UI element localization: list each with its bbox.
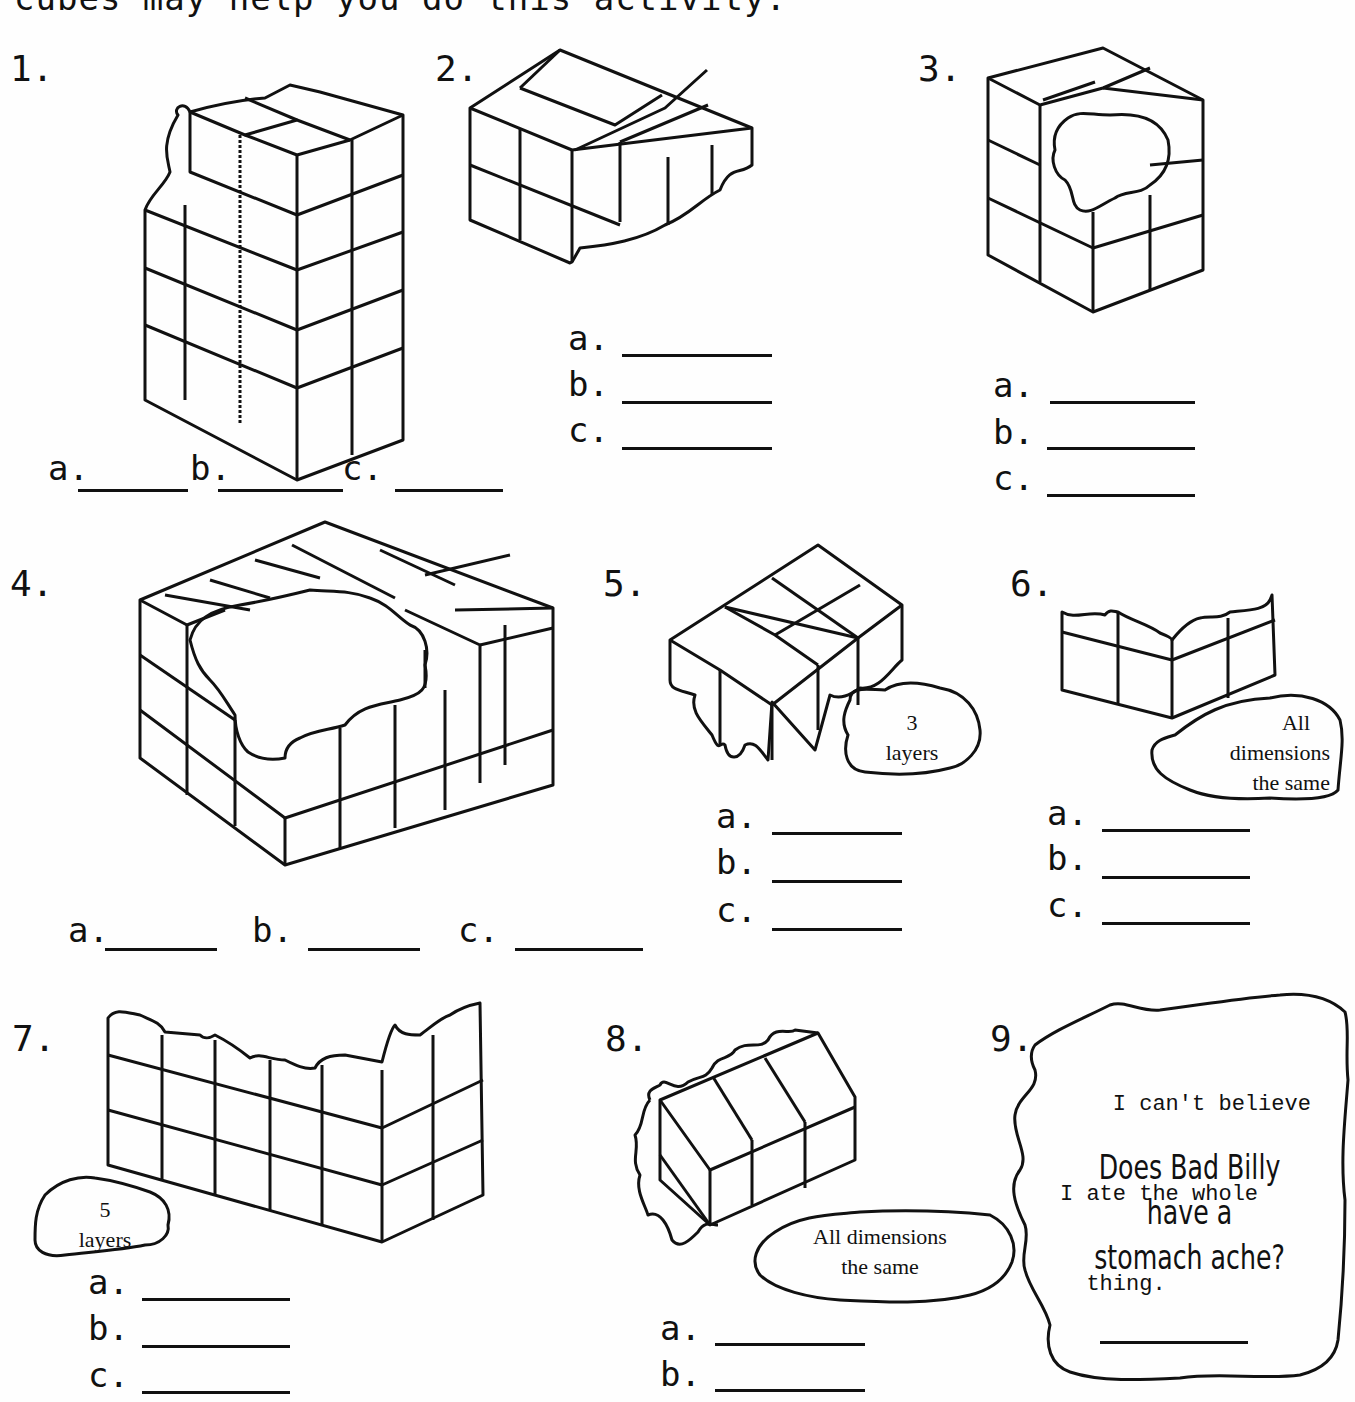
note-line: All [1170, 708, 1330, 738]
answer-label: c. [88, 1355, 129, 1395]
answer-blank[interactable] [772, 928, 902, 931]
answer-label: b. [88, 1308, 129, 1348]
answer-blank[interactable] [1102, 829, 1250, 832]
problem-number: 3. [918, 48, 961, 89]
note-bubble: All dimensions the same [1170, 708, 1330, 798]
answer-blank[interactable] [715, 1343, 865, 1346]
intro-text: cubes may help you do this activity. [14, 0, 787, 18]
note-line: the same [1170, 768, 1330, 798]
answer-label: c. [993, 458, 1034, 498]
question-line: have a [1062, 1190, 1317, 1235]
question-line: Does Bad Billy [1062, 1145, 1317, 1190]
answer-label: b. [660, 1354, 701, 1394]
answer-label: c. [716, 890, 757, 930]
answer-blank[interactable] [308, 948, 420, 951]
answer-label: a. [660, 1308, 701, 1348]
note-line: All dimensions [770, 1222, 990, 1252]
answer-label: c. [458, 910, 499, 950]
answer-blank[interactable] [622, 401, 772, 404]
answer-label: a. [568, 318, 609, 358]
answer-label: b. [993, 412, 1034, 452]
answer-blank[interactable] [142, 1391, 290, 1394]
answer-blank[interactable] [1050, 401, 1195, 404]
note-bubble: 3 layers [862, 708, 962, 768]
answer-blank[interactable] [142, 1298, 290, 1301]
answer-blank[interactable] [1100, 1341, 1248, 1344]
answer-blank[interactable] [622, 447, 772, 450]
answer-blank[interactable] [142, 1345, 290, 1348]
problem-number: 9. [990, 1018, 1033, 1059]
answer-label: a. [1047, 793, 1088, 833]
answer-label: a. [716, 796, 757, 836]
answer-label: b. [568, 364, 609, 404]
answer-label: c. [1047, 885, 1088, 925]
answer-blank[interactable] [772, 832, 902, 835]
note-line: layers [55, 1225, 155, 1255]
answer-label: b. [1047, 838, 1088, 878]
note-line: the same [770, 1252, 990, 1282]
question-line: stomach ache? [1062, 1235, 1317, 1280]
problem-number: 4. [10, 563, 53, 604]
answer-blank[interactable] [715, 1389, 865, 1392]
answer-label: a. [88, 1262, 129, 1302]
answer-blank[interactable] [105, 948, 217, 951]
answer-blank[interactable] [1102, 876, 1250, 879]
answer-blank[interactable] [218, 489, 343, 492]
note-line: dimensions [1170, 738, 1330, 768]
quote-line: I can't believe [1060, 1090, 1311, 1120]
answer-blank[interactable] [622, 354, 772, 357]
answer-blank[interactable] [772, 880, 902, 883]
note-line: layers [862, 738, 962, 768]
answer-label: a. [68, 910, 109, 950]
problem-number: 1. [10, 48, 53, 89]
problem-number: 5. [603, 563, 646, 604]
question-text: Does Bad Billy have a stomach ache? [1062, 1145, 1317, 1280]
answer-label: c. [568, 410, 609, 450]
answer-blank[interactable] [1102, 922, 1250, 925]
answer-blank[interactable] [78, 489, 188, 492]
problem-number: 8. [605, 1018, 648, 1059]
answer-blank[interactable] [1047, 494, 1195, 497]
answer-blank[interactable] [1047, 447, 1195, 450]
answer-label: b. [190, 448, 231, 488]
answer-label: a. [993, 365, 1034, 405]
note-line: 5 [55, 1195, 155, 1225]
problem-number: 7. [12, 1018, 55, 1059]
note-bubble: All dimensions the same [770, 1222, 990, 1282]
answer-blank[interactable] [395, 489, 503, 492]
answer-label: b. [716, 842, 757, 882]
answer-blank[interactable] [515, 948, 643, 951]
note-bubble: 5 layers [55, 1195, 155, 1255]
answer-label: b. [252, 910, 293, 950]
problem-number: 6. [1010, 563, 1053, 604]
note-line: 3 [862, 708, 962, 738]
answer-label: a. [48, 448, 89, 488]
answer-label: c. [342, 448, 383, 488]
problem-number: 2. [435, 48, 478, 89]
